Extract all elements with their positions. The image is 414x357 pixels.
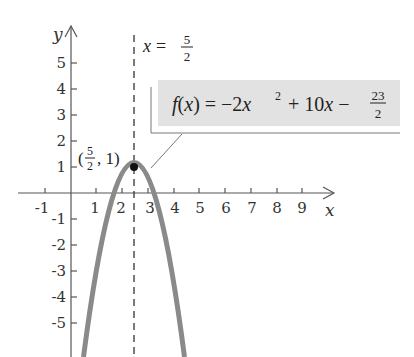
- x-tick-label: 2: [116, 199, 126, 217]
- svg-text:5: 5: [184, 32, 191, 47]
- y-tick-label: -2: [51, 236, 66, 254]
- parabola-chart: -1 1 2 3 4 5 6 7 8 9 x 5: [0, 0, 414, 357]
- vertex-label: ( 5 2 , 1): [78, 144, 120, 173]
- svg-text:x=: x=: [142, 36, 166, 56]
- svg-text:2: 2: [87, 159, 93, 173]
- svg-text:5: 5: [87, 144, 93, 158]
- y-tick-label: -4: [51, 288, 66, 306]
- svg-text:2: 2: [375, 106, 382, 121]
- x-axis-label: x: [325, 200, 335, 220]
- svg-text:(: (: [78, 149, 84, 168]
- x-tick-label: 8: [272, 199, 282, 217]
- x-tick-label: 1: [90, 199, 100, 217]
- x-tick-label: 5: [195, 199, 205, 217]
- x-tick-label: 6: [221, 199, 231, 217]
- equation-box: f(x) = −2x 2 + 10x − 23 2: [151, 80, 400, 133]
- svg-text:2: 2: [184, 49, 191, 64]
- x-tick-label: 9: [297, 199, 307, 217]
- axis-of-symmetry-label: x= 5 2: [142, 32, 193, 64]
- y-tick-label: 4: [56, 80, 66, 98]
- y-tick-label: 2: [56, 132, 66, 150]
- x-tick-label: -1: [35, 199, 50, 217]
- svg-text:23: 23: [372, 88, 385, 103]
- y-tick-label: 1: [56, 158, 66, 176]
- svg-text:+ 10x −: + 10x −: [288, 93, 349, 115]
- svg-text:2: 2: [275, 89, 281, 103]
- y-tick-label: -1: [51, 210, 66, 228]
- y-tick-label: 3: [56, 106, 66, 124]
- vertex-point: [130, 163, 138, 171]
- y-tick-label: 5: [56, 54, 66, 72]
- svg-text:, 1): , 1): [97, 149, 120, 168]
- y-tick-label: -3: [51, 262, 66, 280]
- x-tick-label: 4: [170, 199, 180, 217]
- y-tick-label: -5: [51, 314, 66, 332]
- svg-text:f(x) = −2x: f(x) = −2x: [172, 93, 251, 116]
- x-tick-label: 7: [247, 199, 257, 217]
- y-axis: 5 4 3 2 1 -1 -2 -3 -4 -5 y: [51, 24, 77, 357]
- y-axis-label: y: [52, 24, 63, 44]
- leader-line: [151, 134, 182, 168]
- x-tick-label: 3: [145, 199, 155, 217]
